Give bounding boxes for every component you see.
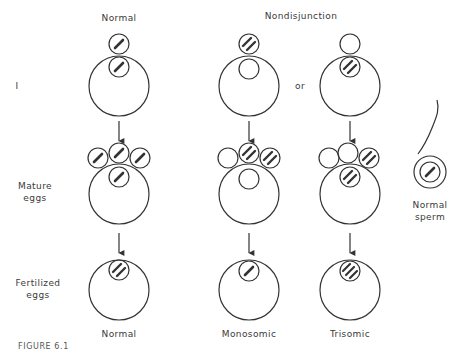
nondisjunction-b-mature-egg [319,143,380,224]
header-nondisjunction: Nondisjunction [256,10,346,22]
trisomic-fertilized-egg [320,260,380,320]
row-label-mature-line1: Mature [10,180,60,192]
row-label-fertilized-line1: Fertilized [8,277,68,289]
outcome-normal: Normal [94,328,144,340]
nondisjunction-a-mature-egg [218,143,280,224]
normal-stage-one-cell [89,34,149,116]
normal-fertilized-egg [89,260,149,320]
sperm-label-line2: sperm [405,211,455,223]
outcome-trisomic: Trisomic [322,328,378,340]
row-label-stage-one: I [10,80,24,92]
row-label-fertilized-eggs: Fertilized eggs [8,277,68,301]
or-connector: or [290,80,310,92]
nondisjunction-b-stage-one-cell [320,34,380,116]
figure-caption: FIGURE 6.1 [18,342,69,351]
sperm-label-line1: Normal [405,199,455,211]
normal-sperm [414,100,446,188]
outcome-monosomic: Monosomic [214,328,284,340]
header-normal: Normal [94,12,144,24]
monosomic-fertilized-egg [219,260,279,320]
row-label-mature-line2: eggs [10,192,60,204]
row-label-fertilized-line2: eggs [8,289,68,301]
normal-mature-egg [88,143,150,224]
nondisjunction-a-stage-one-cell [219,34,279,116]
row-label-mature-eggs: Mature eggs [10,180,60,204]
sperm-label: Normal sperm [405,199,455,223]
